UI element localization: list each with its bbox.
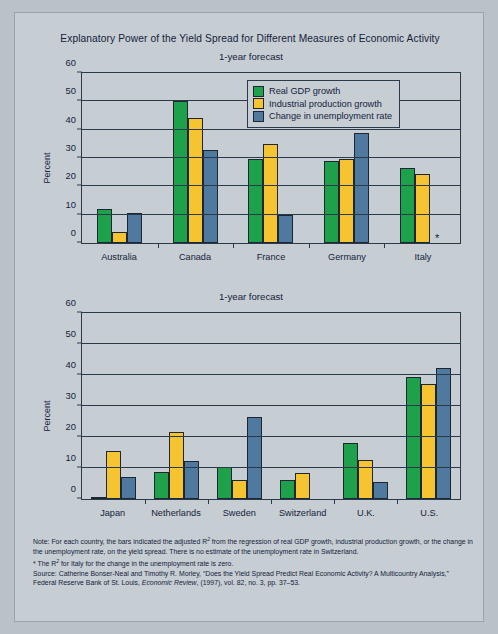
x-axis-label-italy: Italy: [385, 252, 461, 262]
figure-title: Explanatory Power of the Yield Spread fo…: [15, 33, 485, 44]
bar: [91, 497, 106, 499]
bar: [295, 473, 310, 499]
bar: [188, 118, 203, 243]
bar: [406, 377, 421, 499]
bar: [203, 150, 218, 244]
bar-group-japan: [82, 313, 145, 499]
chart-2-bar-groups: [82, 313, 460, 499]
bar: [154, 472, 169, 499]
figure-page: Explanatory Power of the Yield Spread fo…: [0, 0, 498, 634]
x-axis-label-france: France: [233, 252, 309, 262]
y-tick-mark-0: [77, 498, 82, 499]
zero-value-asterisk: *: [430, 235, 445, 243]
y-tick-label-30: 30: [66, 390, 82, 401]
gridline-10: [82, 214, 460, 215]
y-tick-label-10: 10: [66, 452, 82, 463]
legend-item-change-in-unemployment-rate: Change in unemployment rate: [253, 110, 392, 123]
y-tick-mark-40: [77, 374, 82, 375]
gridline-40: [82, 129, 460, 130]
bar: [121, 477, 136, 499]
footnote-star-b: for Italy for the change in the unemploy…: [59, 560, 233, 567]
footnote-star-a: * The R: [33, 560, 56, 567]
bar: [217, 467, 232, 499]
bar: [112, 232, 127, 243]
legend-label-industrial-production-growth: Industrial production growth: [269, 98, 382, 111]
legend-swatch-yellow-icon: [253, 98, 264, 109]
bar-group-switzerland: [271, 313, 334, 499]
y-tick-label-50: 50: [66, 328, 82, 339]
chart-legend: Real GDP growth Industrial production gr…: [247, 80, 400, 128]
source-journal: Economic Review: [142, 579, 197, 586]
y-tick-label-40: 40: [66, 359, 82, 370]
bar: [280, 480, 295, 499]
bar: [106, 451, 121, 499]
bar: [232, 480, 247, 499]
source-text: Source: Catherine Bonser-Neal and Timoth…: [33, 569, 473, 587]
bar-group-australia: [82, 73, 158, 243]
legend-label-real-gdp-growth: Real GDP growth: [269, 85, 340, 98]
x-axis-label-us: U.S.: [398, 508, 461, 518]
figure-notes: Note: For each country, the bars indicat…: [33, 535, 473, 588]
y-tick-mark-50: [77, 343, 82, 344]
chart-2-y-axis-label: Percent: [42, 400, 52, 431]
x-axis-label-switzerland: Switzerland: [271, 508, 334, 518]
y-tick-mark-40: [77, 128, 82, 129]
y-tick-mark-20: [77, 436, 82, 437]
x-axis-label-netherlands: Netherlands: [144, 508, 207, 518]
x-axis-label-germany: Germany: [309, 252, 385, 262]
chart-1-plot-area: Percent * 0102030405060 AustraliaCanadaF…: [33, 62, 469, 274]
gridline-50: [82, 343, 460, 344]
gridline-30: [82, 157, 460, 158]
source-text-b: , (1997), vol. 82, no. 3, pp. 37–53.: [197, 579, 300, 586]
gridline-20: [82, 436, 460, 437]
gridline-10: [82, 467, 460, 468]
bar: [263, 144, 278, 243]
y-tick-mark-30: [77, 405, 82, 406]
y-tick-mark-60: [77, 72, 82, 73]
bar-group-canada: [158, 73, 234, 243]
bar: [127, 213, 142, 243]
y-tick-label-50: 50: [66, 85, 82, 96]
x-axis-label-uk: U.K.: [334, 508, 397, 518]
chart-2-plot-area: Percent 0102030405060 JapanNetherlandsSw…: [33, 302, 469, 530]
legend-swatch-blue-icon: [253, 111, 264, 122]
bar: [324, 161, 339, 243]
y-tick-label-30: 30: [66, 142, 82, 153]
gridline-30: [82, 405, 460, 406]
bar: [358, 460, 373, 499]
chart-1-x-axis-labels: AustraliaCanadaFranceGermanyItaly: [81, 252, 461, 262]
bar: [354, 133, 369, 244]
note-text-a: Note: For each country, the bars indicat…: [33, 538, 207, 545]
y-tick-mark-0: [77, 242, 82, 243]
x-axis-label-japan: Japan: [81, 508, 144, 518]
y-tick-mark-50: [77, 100, 82, 101]
bar: [421, 384, 436, 499]
y-tick-mark-10: [77, 213, 82, 214]
y-tick-label-20: 20: [66, 421, 82, 432]
gridline-60: [82, 72, 460, 73]
bar-group-uk: [334, 313, 397, 499]
y-tick-label-10: 10: [66, 198, 82, 209]
footnote-star: * The R2 for Italy for the change in the…: [33, 557, 473, 569]
chart-2-plot: 0102030405060: [81, 312, 461, 500]
bar-group-netherlands: [145, 313, 208, 499]
legend-item-real-gdp-growth: Real GDP growth: [253, 85, 392, 98]
bar: [248, 159, 263, 243]
chart-1-subtitle: 1-year forecast: [33, 51, 469, 62]
y-tick-label-20: 20: [66, 170, 82, 181]
gridline-40: [82, 374, 460, 375]
chart-2-subtitle: 1-year forecast: [33, 291, 469, 302]
chart-2: 1-year forecast Percent 0102030405060 Ja…: [33, 291, 469, 531]
legend-label-change-in-unemployment-rate: Change in unemployment rate: [269, 110, 392, 123]
bar: [173, 101, 188, 243]
bar: [373, 482, 388, 499]
bar: [400, 168, 415, 243]
x-axis-label-canada: Canada: [157, 252, 233, 262]
bar: [415, 174, 430, 243]
y-tick-mark-10: [77, 467, 82, 468]
chart-2-x-axis-labels: JapanNetherlandsSwedenSwitzerlandU.K.U.S…: [81, 508, 461, 518]
y-tick-label-60: 60: [66, 57, 82, 68]
y-tick-label-0: 0: [71, 483, 82, 494]
y-tick-label-0: 0: [71, 227, 82, 238]
chart-1: 1-year forecast Percent * 0102030405060 …: [33, 51, 469, 279]
